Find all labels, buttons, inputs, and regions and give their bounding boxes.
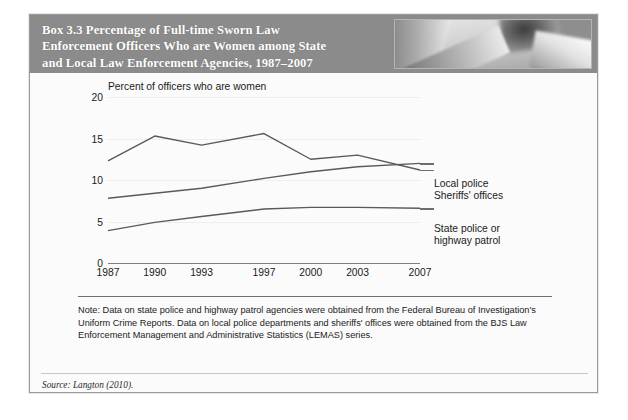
note-block: Note: Data on state police and highway p… bbox=[78, 296, 552, 342]
note-divider bbox=[78, 296, 552, 297]
source-divider bbox=[41, 373, 588, 374]
box-title: Box 3.3 Percentage of Full-time Sworn La… bbox=[30, 15, 394, 73]
y-axis-tick-label: 10 bbox=[92, 175, 103, 186]
y-axis-tick-label: 5 bbox=[97, 216, 103, 227]
x-axis-tick-label: 1993 bbox=[190, 267, 213, 278]
series-leader-1 bbox=[420, 163, 434, 164]
series-label-sheriffs-offices: Sheriffs' offices bbox=[434, 190, 503, 202]
note-text: Note: Data on state police and highway p… bbox=[78, 304, 552, 341]
series-line-1 bbox=[108, 163, 420, 198]
x-axis-tick-label: 1997 bbox=[253, 267, 276, 278]
x-axis-tick-label: 1990 bbox=[143, 267, 166, 278]
x-axis-tick-label: 2000 bbox=[299, 267, 322, 278]
box-figure: Box 3.3 Percentage of Full-time Sworn La… bbox=[29, 14, 598, 393]
series-label-state-police: State police or highway patrol bbox=[434, 223, 500, 247]
series-leader-0 bbox=[420, 170, 434, 171]
x-axis-tick-label: 2003 bbox=[346, 267, 369, 278]
series-label-local-police: Local police bbox=[434, 178, 488, 190]
police-officer-photo bbox=[394, 19, 592, 69]
x-axis-tick-label: 1987 bbox=[97, 267, 120, 278]
y-axis-tick-label: 15 bbox=[92, 133, 103, 144]
series-line-0 bbox=[108, 134, 420, 171]
series-line-2 bbox=[108, 207, 420, 230]
plot-wrap: 051015201987199019931997200020032007 bbox=[108, 97, 420, 263]
y-axis-caption: Percent of officers who are women bbox=[108, 81, 266, 92]
line-chart: Percent of officers who are women 051015… bbox=[30, 73, 597, 288]
x-axis-line bbox=[108, 263, 420, 264]
x-axis-tick-label: 2007 bbox=[409, 267, 432, 278]
source-text: Source: Langton (2010). bbox=[42, 380, 133, 390]
box-header: Box 3.3 Percentage of Full-time Sworn La… bbox=[30, 15, 597, 73]
series-lines bbox=[108, 97, 420, 263]
series-leader-2 bbox=[420, 208, 434, 209]
y-axis-tick-label: 20 bbox=[92, 92, 103, 103]
